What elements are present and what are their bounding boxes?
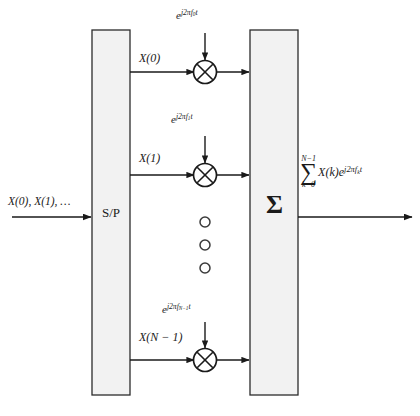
summation-body: X(k)ej2πfkt [318, 165, 362, 180]
summation-body-exponent-prefix: j2πf [344, 165, 357, 174]
vertical-ellipsis-dot-1 [200, 217, 210, 227]
summation-lower-limit: k=0 [302, 181, 315, 189]
branch-1-carrier-exponent: j2πf1t [176, 112, 193, 121]
output-expression: N−1 ∑ k=0 X(k)ej2πfkt [300, 155, 362, 189]
branch-n-1-carrier-exponent-suffix: t [188, 302, 190, 311]
summation-body-exponent: j2πfkt [344, 165, 362, 174]
branch-1-carrier-label: ej2πf1t [171, 113, 193, 125]
branch-0-carrier-label: ej2πf0t [176, 9, 198, 21]
branch-0-carrier-exponent-suffix: t [195, 8, 197, 17]
branch-0-carrier-exponent-prefix: j2πf [181, 8, 193, 17]
branch-n-1-carrier-exponent: j2πfN−1t [167, 302, 191, 311]
ofdm-transmitter-diagram: X(0), X(1), … S/P Σ X(0) X(1) X(N − 1) e… [0, 0, 420, 416]
summation-operator: N−1 ∑ k=0 [300, 155, 317, 189]
vertical-ellipsis-dot-2 [200, 240, 210, 250]
branch-0-signal-label: X(0) [139, 52, 160, 64]
diagram-canvas [0, 0, 420, 416]
branch-n-1-carrier-exponent-prefix: j2πf [167, 302, 179, 311]
branch-0-carrier-exponent: j2πf0t [181, 8, 198, 17]
summation-body-text: X(k)e [318, 165, 344, 179]
summation-body-exponent-suffix: t [360, 165, 362, 174]
branch-1-carrier-exponent-suffix: t [190, 112, 192, 121]
input-signal-label: X(0), X(1), … [8, 196, 71, 208]
vertical-ellipsis-dot-3 [200, 263, 210, 273]
serial-to-parallel-label: S/P [102, 206, 120, 219]
branch-n-1-signal-label: X(N − 1) [139, 331, 182, 343]
branch-n-1-carrier-label: ej2πfN−1t [162, 303, 191, 315]
summation-sigma-glyph: ∑ [300, 162, 317, 182]
branch-1-signal-label: X(1) [139, 152, 160, 164]
branch-1-carrier-exponent-prefix: j2πf [176, 112, 188, 121]
summation-block-label: Σ [266, 192, 283, 218]
